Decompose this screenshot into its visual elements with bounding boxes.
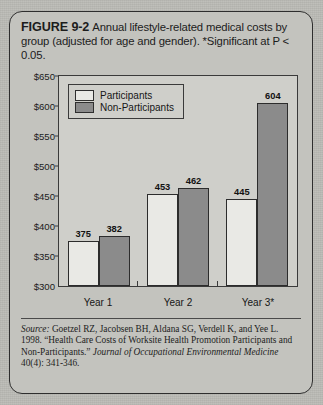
bar-value-label: 375 xyxy=(75,229,91,239)
legend-item: Participants xyxy=(75,90,174,101)
chart: $650$600$550$500$450$400$350$300 Partici… xyxy=(16,69,304,316)
y-axis-tick-label: $550 xyxy=(34,130,55,141)
bar-rect[interactable] xyxy=(147,194,178,286)
bar-group: 445604 xyxy=(218,76,297,286)
y-axis-tick-label: $400 xyxy=(34,220,55,231)
bar-rect[interactable] xyxy=(68,241,99,286)
y-axis-tick-label: $300 xyxy=(34,280,55,291)
bar-participants[interactable]: 445 xyxy=(226,76,257,286)
y-axis-tick-label: $500 xyxy=(34,160,55,171)
figure-container: FIGURE 9-2Annual lifestyle-related medic… xyxy=(9,11,313,394)
legend-item-label: Participants xyxy=(100,90,152,101)
bar-rect[interactable] xyxy=(257,103,288,285)
y-axis-tick-label: $350 xyxy=(34,250,55,261)
y-axis-tick-label: $450 xyxy=(34,190,55,201)
source-journal-name: Journal of Occupational Environmental Me… xyxy=(93,347,279,357)
x-axis-label: Year 3* xyxy=(218,297,298,308)
figure-number: FIGURE 9-2 xyxy=(21,20,89,34)
y-axis-tick-label: $600 xyxy=(34,100,55,111)
bar-rect[interactable] xyxy=(178,188,209,285)
bar-non-participants[interactable]: 604 xyxy=(257,76,288,286)
legend-item: Non-Participants xyxy=(75,102,174,113)
x-axis-labels: Year 1Year 2Year 3* xyxy=(58,297,298,308)
legend-swatch-icon xyxy=(75,102,94,113)
bar-value-label: 445 xyxy=(234,187,250,197)
bar-value-label: 604 xyxy=(265,91,281,101)
source-citation-tail: 40(4): 341-346. xyxy=(21,358,79,368)
bar-value-label: 453 xyxy=(155,182,171,192)
source-label: Source: xyxy=(21,324,50,334)
bar-value-label: 462 xyxy=(186,176,202,186)
plot-area: $650$600$550$500$450$400$350$300 Partici… xyxy=(58,75,298,287)
bar-value-label: 382 xyxy=(106,224,122,234)
legend-item-label: Non-Participants xyxy=(100,102,174,113)
figure-caption: FIGURE 9-2Annual lifestyle-related medic… xyxy=(10,12,312,67)
bar-rect[interactable] xyxy=(99,236,130,285)
chart-legend: ParticipantsNon-Participants xyxy=(68,84,184,119)
source-citation: Source: Goetzel RZ, Jacobsen BH, Aldana … xyxy=(10,319,312,376)
y-axis-tick-label: $650 xyxy=(34,70,55,81)
legend-swatch-icon xyxy=(75,90,94,101)
bar-rect[interactable] xyxy=(226,199,257,286)
x-axis-label: Year 1 xyxy=(58,297,138,308)
x-axis-label: Year 2 xyxy=(138,297,218,308)
